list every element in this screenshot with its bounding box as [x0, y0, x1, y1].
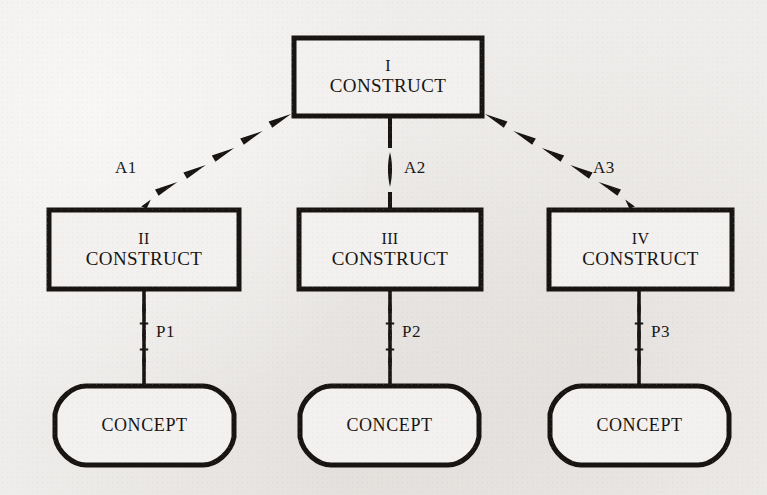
proposition-edge-p3	[635, 290, 643, 385]
proposition-edge-p2	[386, 290, 394, 385]
axiom-edge-a3	[485, 114, 635, 209]
construct-box-iii[interactable]	[299, 210, 481, 289]
axiom-edge-a1	[141, 114, 291, 209]
construct-box-iv[interactable]	[549, 210, 732, 289]
concept-shape-3[interactable]	[550, 386, 729, 465]
concept-shape-1[interactable]	[55, 386, 234, 465]
diagram-canvas: I CONSTRUCT II CONSTRUCT III CONSTRUCT I…	[0, 0, 767, 495]
proposition-edge-p1	[140, 290, 148, 385]
construct-box-ii[interactable]	[49, 210, 239, 289]
diagram-vector-layer	[0, 0, 767, 495]
concept-shape-2[interactable]	[300, 386, 479, 465]
construct-box-i[interactable]	[294, 38, 482, 116]
axiom-edge-a2-dash	[388, 152, 392, 187]
